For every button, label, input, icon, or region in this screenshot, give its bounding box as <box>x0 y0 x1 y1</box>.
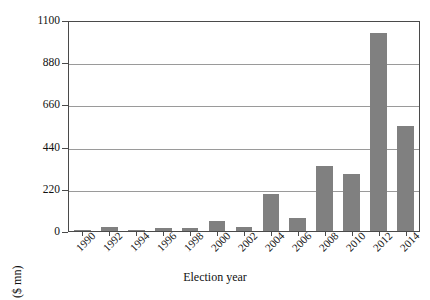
bar[interactable] <box>397 126 414 231</box>
y-tick-label: 440 <box>4 142 60 154</box>
x-label-slot: 1998 <box>176 236 203 270</box>
x-label-slot: 2002 <box>230 236 257 270</box>
bar-slot <box>338 22 365 231</box>
y-tick-label: 880 <box>4 57 60 69</box>
bar-slot <box>177 22 204 231</box>
x-label-slot: 2010 <box>339 236 366 270</box>
bar-slot <box>69 22 96 231</box>
bar-slot <box>204 22 231 231</box>
bar[interactable] <box>343 174 360 231</box>
bar-slot <box>311 22 338 231</box>
x-label-slot: 2004 <box>258 236 285 270</box>
x-label-slot: 2006 <box>285 236 312 270</box>
x-label-slot: 1996 <box>149 236 176 270</box>
y-axis-title: Total outside spending ($ mn) <box>10 232 26 300</box>
x-label-slot: 1990 <box>68 236 95 270</box>
y-tick-label: 660 <box>4 99 60 111</box>
bar-slot <box>96 22 123 231</box>
x-label-slot: 2012 <box>366 236 393 270</box>
bar-slot <box>365 22 392 231</box>
bar-slot <box>392 22 419 231</box>
bar-series <box>69 22 419 231</box>
x-label-slot: 2008 <box>312 236 339 270</box>
plot-area <box>68 21 420 232</box>
y-tick-label: 1100 <box>4 15 60 27</box>
x-label-slot: 1994 <box>122 236 149 270</box>
bar[interactable] <box>316 166 333 231</box>
x-label-slot: 2000 <box>203 236 230 270</box>
bar-slot <box>150 22 177 231</box>
y-tick-label: 220 <box>4 184 60 196</box>
bar-slot <box>257 22 284 231</box>
bar[interactable] <box>263 194 280 231</box>
bar-slot <box>231 22 258 231</box>
x-label-slot: 2014 <box>393 236 420 270</box>
y-tick-label: 0 <box>4 226 60 238</box>
bar[interactable] <box>370 33 387 231</box>
x-axis-labels: 1990199219941996199820002002200420062008… <box>68 236 420 270</box>
bar-slot <box>284 22 311 231</box>
chart-figure: Total outside spending ($ mn) 0220440660… <box>0 0 430 300</box>
x-axis-title: Election year <box>0 270 430 285</box>
x-label-slot: 1992 <box>95 236 122 270</box>
bar-slot <box>123 22 150 231</box>
